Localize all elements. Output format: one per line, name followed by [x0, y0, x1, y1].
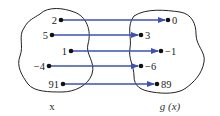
input-value: 1	[62, 46, 67, 57]
mapping-diagram: 20531−1−4−69189 x g (x)	[0, 0, 220, 116]
domain-label: x	[49, 100, 55, 112]
output-value: 0	[172, 15, 177, 26]
input-value: −4	[34, 61, 46, 72]
output-value: −1	[165, 46, 176, 57]
output-value: 3	[145, 30, 150, 41]
output-value: 89	[161, 79, 172, 90]
mapping-points: 20531−1−4−69189	[34, 15, 177, 90]
output-point	[139, 33, 144, 38]
output-point	[159, 49, 164, 54]
output-point	[139, 64, 144, 69]
input-value: 91	[49, 79, 60, 90]
output-point	[166, 18, 171, 23]
input-point	[69, 49, 74, 54]
output-point	[155, 82, 160, 87]
input-point	[59, 18, 64, 23]
range-label: g (x)	[160, 100, 181, 113]
input-value: 5	[43, 30, 48, 41]
input-point	[50, 33, 55, 38]
input-value: 2	[52, 15, 57, 26]
input-point	[61, 82, 66, 87]
input-point	[47, 64, 52, 69]
output-value: −6	[145, 61, 156, 72]
